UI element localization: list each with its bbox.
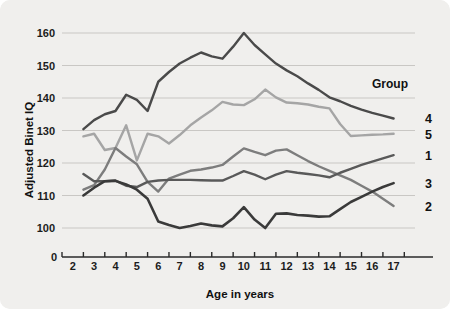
legend-label-group-5: 5: [425, 128, 432, 142]
y-axis-title: Adjusted Binet IQ: [23, 102, 35, 199]
x-tick-label: 11: [259, 260, 271, 272]
legend-title: Group: [372, 77, 408, 91]
x-tick-label: 14: [323, 260, 336, 272]
line-chart: 100110120130140150160 234567891011121314…: [0, 0, 450, 309]
x-tick-label: 16: [366, 260, 378, 272]
x-tick-label: 13: [302, 260, 314, 272]
y-tick-label: 150: [37, 60, 55, 72]
x-tick-label: 2: [70, 260, 76, 272]
x-tick-label: 6: [155, 260, 161, 272]
y-tick-label: 100: [37, 222, 55, 234]
chart-figure: 100110120130140150160 234567891011121314…: [0, 0, 450, 309]
y-tick-label: 140: [37, 92, 55, 104]
legend-label-group-4: 4: [425, 112, 432, 126]
y-axis-origin-label: 0: [51, 251, 57, 263]
y-tick-label: 120: [37, 157, 55, 169]
x-tick-label: 3: [91, 260, 97, 272]
x-tick-label: 5: [134, 260, 140, 272]
x-tick-label: 8: [198, 260, 204, 272]
x-tick-label: 7: [177, 260, 183, 272]
y-tick-label: 160: [37, 27, 55, 39]
y-tick-label: 110: [37, 190, 55, 202]
x-tick-label: 12: [281, 260, 293, 272]
legend-label-group-1: 1: [425, 149, 432, 163]
x-tick-label: 10: [238, 260, 250, 272]
legend-label-group-2: 2: [425, 200, 432, 214]
x-tick-label: 9: [219, 260, 225, 272]
x-tick-label: 15: [345, 260, 357, 272]
x-tick-label: 17: [387, 260, 399, 272]
y-tick-label: 130: [37, 125, 55, 137]
x-tick-label: 4: [112, 260, 119, 272]
legend-label-group-3: 3: [425, 177, 432, 191]
x-axis-title: Age in years: [206, 288, 274, 300]
